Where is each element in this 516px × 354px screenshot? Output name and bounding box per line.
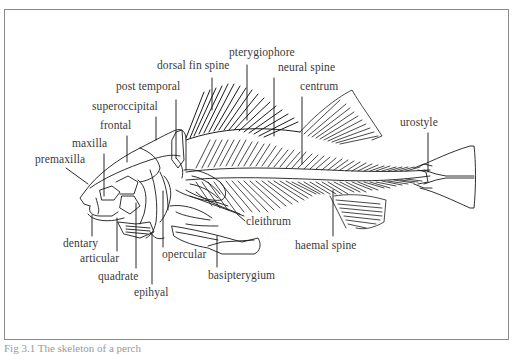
- label-dentary: dentary: [63, 238, 98, 250]
- label-urostyle: urostyle: [400, 117, 438, 129]
- label-premaxilla: premaxilla: [35, 154, 85, 166]
- label-articular: articular: [80, 253, 119, 265]
- anal-fin: [330, 195, 386, 229]
- label-frontal: frontal: [100, 120, 131, 132]
- soft-dorsal-fin: [300, 90, 382, 144]
- label-cleithrum: cleithrum: [246, 216, 291, 228]
- leader-lines: [66, 65, 428, 284]
- label-post-temporal: post temporal: [116, 81, 180, 93]
- vertebral-column: [186, 168, 430, 181]
- label-quadrate: quadrate: [98, 271, 138, 283]
- neural-spines: [196, 140, 420, 171]
- label-dorsal-fin-spine: dorsal fin spine: [157, 60, 230, 72]
- label-centrum: centrum: [300, 81, 338, 93]
- label-basipterygium: basipterygium: [208, 270, 275, 282]
- label-maxilla: maxilla: [72, 138, 107, 150]
- leader-premaxilla: [66, 168, 88, 184]
- label-neural-spine: neural spine: [278, 62, 335, 74]
- figure-caption: Fig 3.1 The skeleton of a perch: [4, 343, 141, 354]
- label-epihyal: epihyal: [134, 287, 169, 299]
- label-opercular: opercular: [162, 249, 206, 261]
- label-pterygiophore: pterygiophore: [229, 47, 295, 59]
- ribs-haemal-spines: [196, 179, 422, 212]
- label-superoccipital: superoccipital: [92, 101, 158, 113]
- dorsal-fin-spines: [186, 84, 300, 140]
- pectoral-region: [170, 170, 260, 254]
- label-haemal-spine: haemal spine: [295, 240, 357, 252]
